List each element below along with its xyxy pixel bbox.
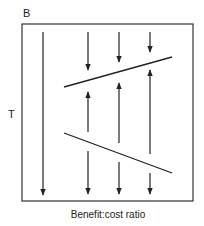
upper-threshold-line	[64, 57, 172, 87]
x-axis-label: Benefit:cost ratio	[0, 210, 204, 220]
label-t: T	[8, 109, 15, 120]
lower-threshold-line	[64, 133, 172, 173]
arrow-columns	[88, 32, 150, 194]
diagram-frame	[22, 24, 193, 201]
label-b: B	[23, 8, 30, 19]
diagram-canvas	[0, 0, 204, 226]
